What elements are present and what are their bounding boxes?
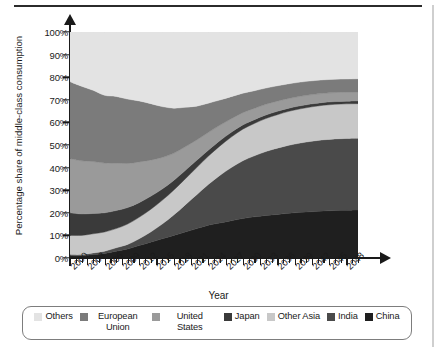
legend-item[interactable]: European Union — [80, 311, 145, 332]
legend-label: United States — [163, 311, 217, 332]
x-axis-tick-label: 2027 — [224, 250, 246, 272]
x-axis-ticks: 2000200320062009201220152018202120242027… — [0, 0, 437, 300]
legend-swatch-icon — [34, 313, 42, 321]
legend-label: Others — [45, 311, 72, 322]
legend-item[interactable]: Other Asia — [267, 311, 320, 322]
legend-swatch-icon — [152, 313, 160, 321]
legend-swatch-icon — [327, 313, 335, 321]
x-axis-tick-label: 2048 — [344, 250, 366, 272]
x-axis-tick-label: 2006 — [103, 250, 125, 272]
legend-item[interactable]: United States — [152, 311, 217, 332]
plot-area: Percentage share of middle-class consump… — [0, 0, 437, 300]
legend-label: Japan — [235, 311, 260, 322]
chart-page: Percentage share of middle-class consump… — [0, 0, 437, 350]
legend-item[interactable]: Japan — [224, 311, 260, 322]
legend-label: European Union — [91, 311, 145, 332]
legend-item[interactable]: Others — [34, 311, 72, 322]
chart-legend: OthersEuropean UnionUnited StatesJapanOt… — [22, 306, 412, 340]
legend-label: India — [338, 311, 358, 322]
legend-swatch-icon — [267, 313, 275, 321]
legend-label: Other Asia — [278, 311, 320, 322]
legend-swatch-icon — [80, 313, 88, 321]
x-axis-title: Year — [0, 290, 437, 301]
legend-item[interactable]: China — [365, 311, 400, 322]
legend-item[interactable]: India — [327, 311, 358, 322]
legend-swatch-icon — [224, 313, 232, 321]
legend-swatch-icon — [365, 313, 373, 321]
legend-label: China — [376, 311, 400, 322]
